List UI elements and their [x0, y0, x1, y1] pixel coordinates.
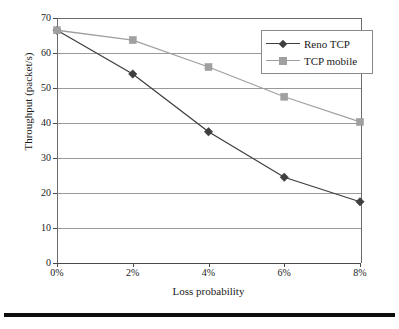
- series-marker: [281, 93, 288, 100]
- series-marker: [357, 118, 364, 125]
- legend-swatch: [266, 38, 300, 50]
- legend-item-2[interactable]: TCP mobile: [266, 52, 368, 69]
- series-marker: [129, 37, 136, 44]
- diamond-marker-icon: [279, 39, 287, 47]
- legend-item-1[interactable]: Reno TCP: [266, 35, 368, 52]
- series-marker: [205, 64, 212, 71]
- series-marker: [356, 198, 364, 206]
- square-marker-icon: [279, 57, 287, 65]
- legend-label: TCP mobile: [300, 55, 357, 67]
- series-marker: [54, 27, 61, 34]
- chart-area: 010203040506070 0%2%4%6%8% Throughput (p…: [0, 0, 399, 300]
- footer-rule: [4, 313, 395, 317]
- figure-container: 010203040506070 0%2%4%6%8% Throughput (p…: [0, 0, 399, 329]
- legend-label: Reno TCP: [300, 38, 350, 50]
- series-marker: [280, 173, 288, 181]
- legend-swatch: [266, 55, 300, 67]
- chart-legend: Reno TCPTCP mobile: [261, 30, 373, 74]
